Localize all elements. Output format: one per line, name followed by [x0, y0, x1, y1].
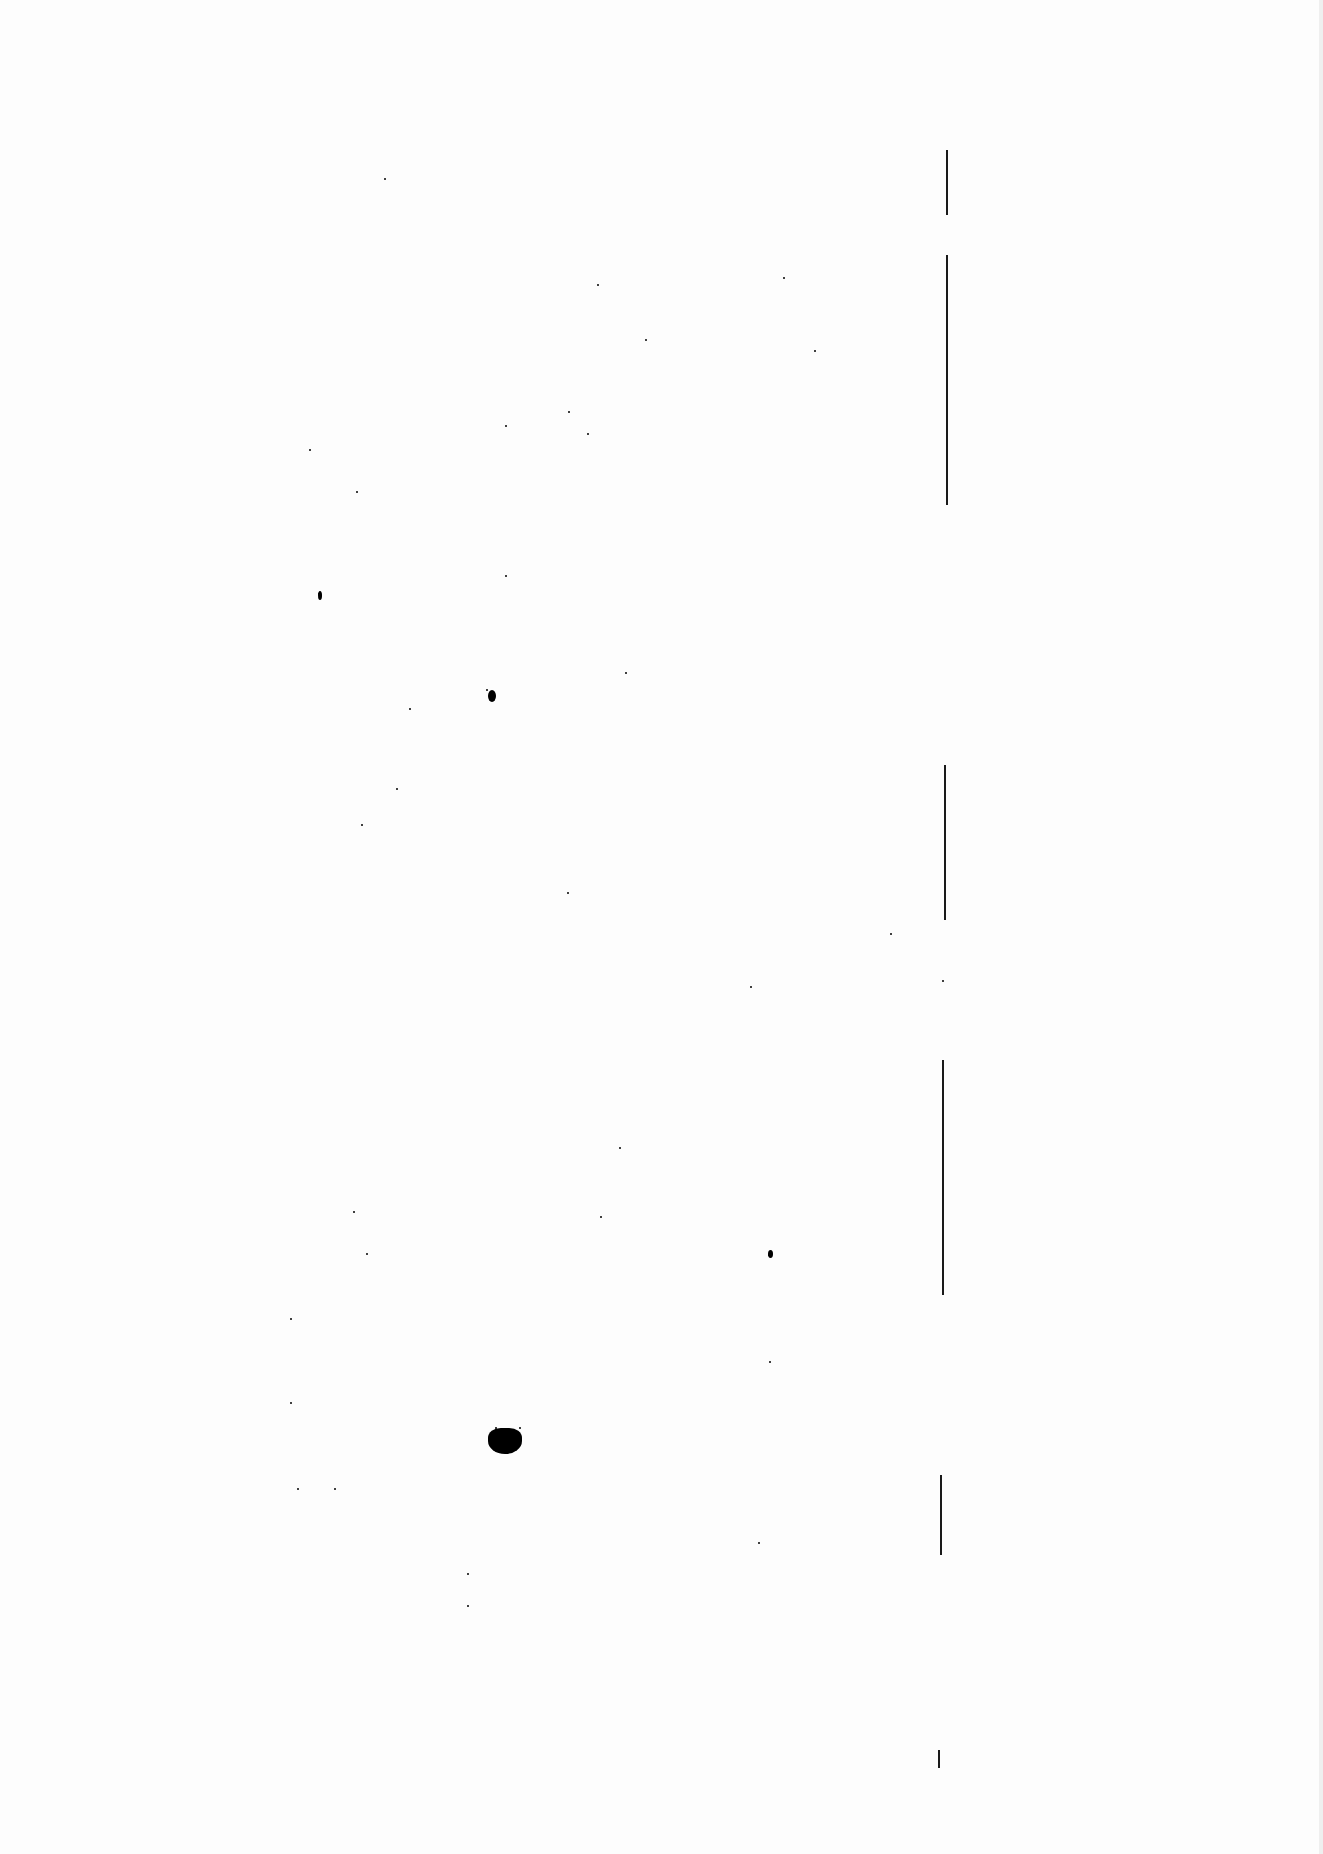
ink-speck — [309, 449, 311, 451]
ink-speck — [297, 1488, 299, 1490]
ink-speck — [409, 708, 411, 710]
ink-dot — [768, 1250, 773, 1258]
ink-dot — [318, 591, 322, 600]
ink-speck — [356, 491, 358, 493]
ink-speck — [366, 1253, 368, 1255]
ink-speck — [890, 933, 892, 935]
ink-dot — [488, 690, 496, 702]
ink-speck — [290, 1402, 292, 1404]
margin-line-segment — [940, 1475, 942, 1555]
ink-speck — [334, 1488, 336, 1490]
ink-speck — [619, 1147, 621, 1149]
scanned-page — [0, 0, 1323, 1854]
ink-speck — [783, 277, 785, 279]
ink-speck — [814, 350, 816, 352]
ink-speck — [769, 1361, 771, 1363]
ink-speck — [361, 824, 363, 826]
margin-line-segment — [938, 1750, 940, 1768]
margin-line-segment — [946, 255, 948, 505]
ink-speck — [597, 284, 599, 286]
ink-speck — [625, 672, 627, 674]
ink-speck — [750, 986, 752, 988]
ink-speck — [505, 425, 507, 427]
ink-speck — [384, 178, 386, 180]
ink-speck — [942, 980, 944, 982]
ink-speck — [568, 411, 570, 413]
ink-speck — [645, 339, 647, 341]
ink-speck — [587, 433, 589, 435]
margin-line-segment — [946, 150, 948, 215]
margin-line-segment — [942, 1060, 944, 1295]
ink-speck — [567, 892, 569, 894]
margin-line-segment — [944, 765, 946, 920]
ink-blot — [488, 1428, 522, 1454]
ink-speck — [353, 1211, 355, 1213]
ink-speck — [467, 1573, 469, 1575]
ink-speck — [600, 1216, 602, 1218]
ink-speck — [758, 1542, 760, 1544]
ink-speck — [505, 575, 507, 577]
ink-speck — [486, 689, 488, 691]
ink-speck — [396, 788, 398, 790]
ink-speck — [467, 1605, 469, 1607]
ink-speck — [290, 1318, 292, 1320]
ink-speck — [519, 1427, 521, 1429]
page-edge-shadow — [1319, 0, 1323, 1854]
